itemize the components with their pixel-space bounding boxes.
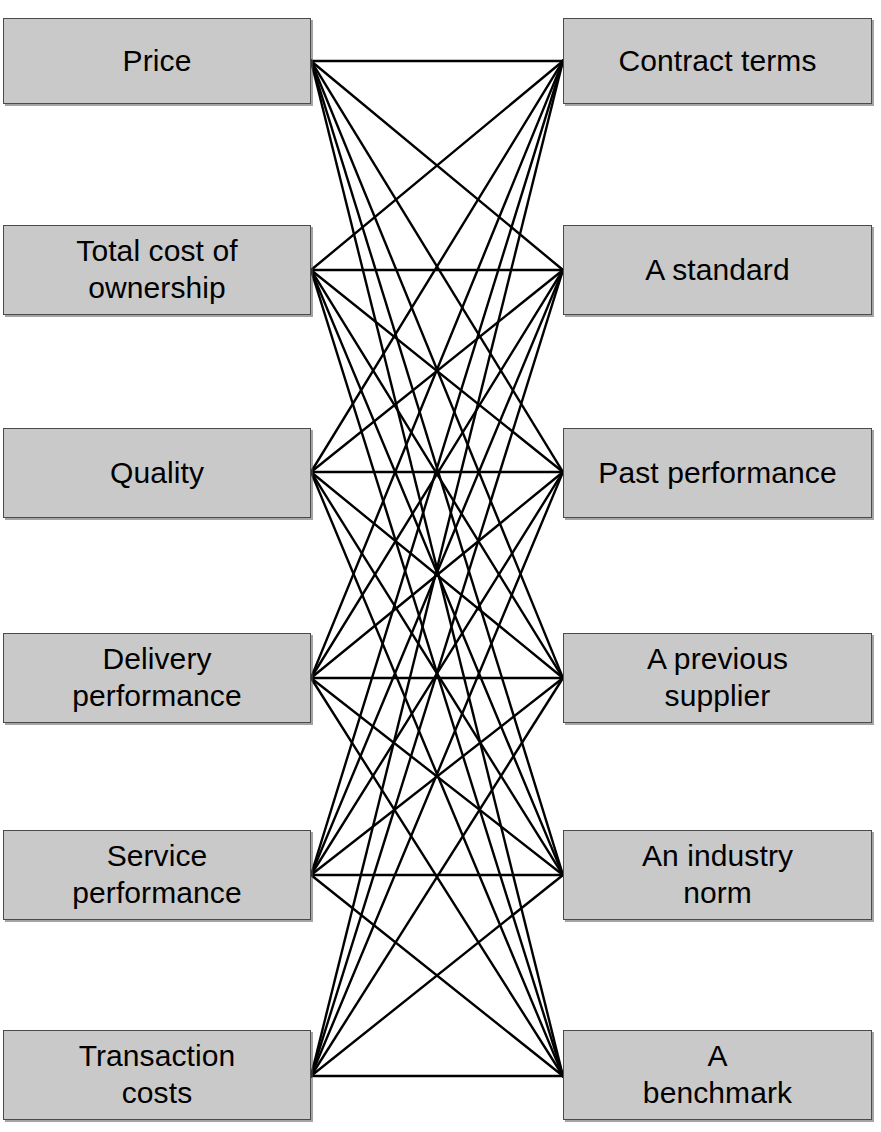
left-node-1[interactable]: Price [3, 18, 311, 104]
edge-layer [0, 0, 881, 1132]
right-node-2-label: A standard [570, 252, 865, 289]
right-node-4[interactable]: A previous supplier [563, 633, 872, 723]
bipartite-diagram: PriceTotal cost of ownershipQualityDeliv… [0, 0, 881, 1132]
right-node-2[interactable]: A standard [563, 225, 872, 315]
left-node-6[interactable]: Transaction costs [3, 1030, 311, 1120]
left-node-4-label: Delivery performance [10, 641, 304, 714]
left-node-4[interactable]: Delivery performance [3, 633, 311, 723]
left-node-3[interactable]: Quality [3, 428, 311, 518]
left-node-6-label: Transaction costs [10, 1038, 304, 1111]
right-node-1-label: Contract terms [570, 43, 865, 80]
left-node-2-label: Total cost of ownership [10, 233, 304, 306]
right-node-3[interactable]: Past performance [563, 428, 872, 518]
right-node-4-label: A previous supplier [570, 641, 865, 714]
left-node-1-label: Price [10, 43, 304, 80]
left-node-3-label: Quality [10, 455, 304, 492]
left-node-2[interactable]: Total cost of ownership [3, 225, 311, 315]
right-node-3-label: Past performance [570, 455, 865, 492]
right-node-6[interactable]: A benchmark [563, 1030, 872, 1120]
left-node-5-label: Service performance [10, 838, 304, 911]
right-node-6-label: A benchmark [570, 1038, 865, 1111]
right-node-5-label: An industry norm [570, 838, 865, 911]
left-node-5[interactable]: Service performance [3, 830, 311, 920]
right-node-1[interactable]: Contract terms [563, 18, 872, 104]
right-node-5[interactable]: An industry norm [563, 830, 872, 920]
